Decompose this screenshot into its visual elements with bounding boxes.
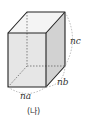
label-na: na	[20, 91, 31, 101]
cuboid-diagram: nc nb na (나)	[0, 0, 88, 121]
label-nc: nc	[70, 36, 81, 46]
caption: (나)	[27, 107, 40, 116]
label-nb: nb	[57, 77, 69, 87]
